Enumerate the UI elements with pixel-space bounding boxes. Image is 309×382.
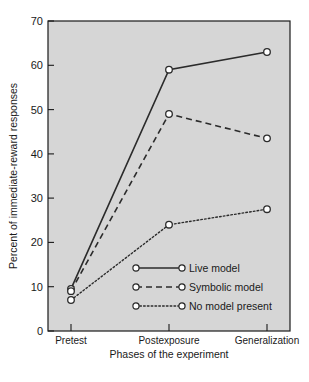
legend-label-live-model: Live model (189, 262, 240, 274)
x-category-label-pretest: Pretest (55, 335, 87, 346)
legend-marker-left-live-model (133, 265, 139, 271)
data-point-symbolic-model-postexposure (166, 111, 173, 118)
x-category-label-postexposure: Postexposure (138, 335, 200, 346)
y-tick-label-70: 70 (31, 15, 43, 27)
legend-marker-left-symbolic-model (133, 284, 139, 290)
y-tick-label-60: 60 (31, 59, 43, 71)
chart-page: 0 10 20 30 40 50 60 70 Percent of immedi… (0, 0, 309, 382)
data-point-no-model-present-postexposure (166, 221, 173, 228)
legend-marker-right-live-model (179, 265, 185, 271)
data-point-no-model-present-generalization (264, 206, 271, 213)
line-chart: 0 10 20 30 40 50 60 70 Percent of immedi… (0, 0, 309, 382)
data-point-live-model-generalization (264, 49, 271, 56)
y-tick-label-30: 30 (31, 192, 43, 204)
data-point-live-model-postexposure (166, 66, 173, 73)
y-tick-label-20: 20 (31, 236, 43, 248)
y-tick-label-50: 50 (31, 104, 43, 116)
data-point-no-model-present-pretest (68, 297, 75, 304)
legend-marker-right-symbolic-model (179, 284, 185, 290)
y-axis-title: Percent of immediate-reward responses (7, 83, 19, 269)
data-point-symbolic-model-pretest (68, 288, 75, 295)
x-category-label-generalization: Generalization (235, 335, 299, 346)
y-tick-label-40: 40 (31, 148, 43, 160)
legend-label-symbolic-model: Symbolic model (189, 281, 263, 293)
legend-marker-right-no-model-present (179, 303, 185, 309)
data-point-symbolic-model-generalization (264, 135, 271, 142)
y-tick-label-0: 0 (37, 325, 43, 337)
legend-marker-left-no-model-present (133, 303, 139, 309)
y-tick-label-10: 10 (31, 281, 43, 293)
legend-label-no-model-present: No model present (189, 300, 272, 312)
x-axis-title: Phases of the experiment (109, 348, 228, 360)
